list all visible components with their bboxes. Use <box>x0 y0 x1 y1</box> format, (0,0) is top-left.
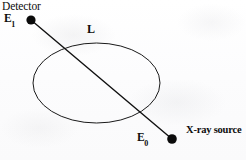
xray-attenuation-figure: Detector E1 L E0 X-ray source <box>0 0 246 160</box>
xray-beam-line <box>31 20 172 139</box>
transmitted-energy-subscript: 1 <box>11 20 15 29</box>
transmitted-energy-label: E1 <box>4 13 16 27</box>
incident-energy-subscript: 0 <box>144 139 148 148</box>
detector-label: Detector <box>2 1 41 13</box>
path-length-label: L <box>87 23 95 35</box>
diagram-canvas <box>0 0 246 160</box>
attenuating-object-ellipse <box>33 43 160 123</box>
incident-energy-label: E0 <box>137 132 149 146</box>
detector-dot-icon <box>26 15 35 24</box>
xray-source-label: X-ray source <box>186 125 241 136</box>
xray-source-dot-icon <box>167 134 177 144</box>
